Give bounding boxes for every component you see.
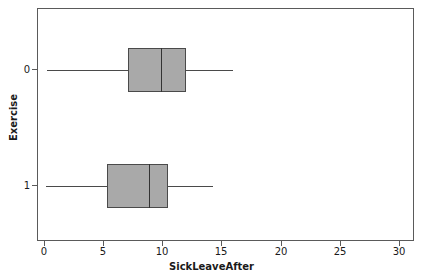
- x-axis-title: SickLeaveAfter: [0, 261, 423, 272]
- whisker-right-1: [168, 186, 213, 187]
- box-0: [128, 48, 186, 92]
- y-tick-mark-1: [32, 185, 37, 186]
- whisker-left-0: [47, 70, 127, 71]
- x-tick-label-25: 25: [334, 246, 347, 257]
- median-1: [149, 164, 150, 208]
- x-tick-label-0: 0: [41, 246, 47, 257]
- whisker-right-0: [186, 70, 233, 71]
- y-axis-title: Exercise: [8, 83, 19, 153]
- whisker-left-1: [46, 186, 106, 187]
- x-tick-label-10: 10: [156, 246, 169, 257]
- median-0: [161, 48, 162, 92]
- x-tick-label-20: 20: [275, 246, 288, 257]
- x-tick-label-15: 15: [215, 246, 228, 257]
- x-tick-label-5: 5: [100, 246, 106, 257]
- y-tick-label-0: 0: [20, 64, 30, 75]
- plot-frame: [37, 8, 414, 241]
- y-tick-label-1: 1: [20, 180, 30, 191]
- boxplot-figure: 0 5 10 15 20 25 30 0 1 SickLeaveAfter Ex…: [0, 0, 423, 278]
- box-1: [107, 164, 169, 208]
- y-tick-mark-0: [32, 69, 37, 70]
- plot-area: [38, 9, 413, 240]
- x-tick-label-30: 30: [393, 246, 406, 257]
